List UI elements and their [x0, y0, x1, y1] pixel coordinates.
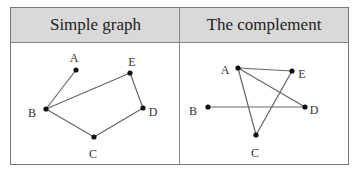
vertex-A: [235, 65, 240, 70]
vertex-C: [253, 132, 258, 137]
edge-AE: [238, 68, 292, 71]
edge-BE: [46, 73, 130, 109]
vertex-label-A: A: [70, 51, 79, 65]
vertex-label-A: A: [221, 63, 230, 77]
edge-CE: [256, 71, 292, 135]
vertex-label-E: E: [128, 55, 135, 69]
graphs-canvas: AEBDCAEBDC: [0, 0, 359, 177]
vertex-label-E: E: [298, 67, 305, 81]
complement-graph: AEBDC: [189, 63, 319, 160]
vertex-E: [127, 70, 132, 75]
edge-AC: [238, 68, 256, 135]
vertex-A: [73, 67, 78, 72]
vertex-label-C: C: [251, 146, 259, 160]
vertex-label-C: C: [89, 147, 97, 161]
vertex-label-B: B: [28, 106, 36, 120]
vertex-C: [91, 134, 96, 139]
edge-ED: [130, 73, 143, 108]
vertex-label-B: B: [189, 104, 197, 118]
vertex-B: [43, 106, 48, 111]
simple-graph: AEBDC: [28, 51, 158, 161]
vertex-B: [205, 104, 210, 109]
vertex-label-D: D: [310, 103, 319, 117]
vertex-label-D: D: [149, 105, 158, 119]
edge-DC: [94, 108, 143, 137]
vertex-E: [289, 68, 294, 73]
edge-AD: [238, 68, 305, 107]
vertex-D: [302, 104, 307, 109]
edge-CB: [46, 109, 94, 137]
vertex-D: [140, 105, 145, 110]
